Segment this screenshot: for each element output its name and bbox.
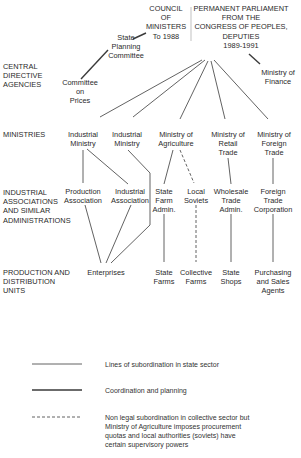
row-assoc-3: AND SIMILAR (3, 206, 71, 215)
min5-line-1: Ministry of (257, 130, 291, 139)
ministry-of-retail-trade: Ministry of Retail Trade (211, 130, 245, 158)
legend-thick-text: Coordination and planning (105, 386, 187, 395)
assoc3-line-1: State (152, 187, 175, 196)
parliament-line-3: CONGRESS OF PEOPLES, (194, 22, 289, 31)
unit2-line-1: State (154, 268, 175, 277)
row-label-production: PRODUCTION AND DISTRIBUTION UNITS (3, 268, 70, 296)
wholesale-trade-admin: Wholesale Trade Admin. (214, 187, 249, 215)
unit4-line-1: State (221, 268, 242, 277)
planning-line-3: Committee (108, 51, 144, 60)
row-prod-2: DISTRIBUTION (3, 277, 70, 286)
min3-line-2: Agriculture (158, 139, 193, 148)
industrial-ministry-1: Industrial Ministry (68, 130, 98, 148)
min4-line-3: Trade (211, 148, 245, 157)
council-line-2: OF (146, 13, 186, 22)
assoc5-line-2: Trade (214, 196, 249, 205)
unit5-line-2: and Sales (255, 277, 292, 286)
state-farm-admin: State Farm Admin. (152, 187, 175, 215)
row-prod-1: PRODUCTION AND (3, 268, 70, 277)
parliament-line-4: DEPUTIES (194, 32, 289, 41)
ministry-of-agriculture: Ministry of Agriculture (158, 130, 193, 148)
assoc6-line-3: Corporation (254, 205, 293, 214)
foreign-trade-corporation: Foreign Trade Corporation (254, 187, 293, 215)
unit5-line-3: Agents (255, 286, 292, 295)
row-ministries-1: MINISTRIES (3, 130, 45, 139)
row-central-1: CENTRAL (3, 62, 42, 71)
row-label-ministries: MINISTRIES (3, 130, 45, 139)
parliament-line-1: PERMANENT PARLIAMENT (194, 4, 289, 13)
assoc6-line-2: Trade (254, 196, 293, 205)
assoc5-line-3: Admin. (214, 205, 249, 214)
row-assoc-4: ADMINISTRATIONS (3, 216, 71, 225)
unit3-line-2: Farms (180, 277, 212, 286)
row-label-central-agencies: CENTRAL DIRECTIVE AGENCIES (3, 62, 42, 90)
council-line-3: MINISTERS (146, 22, 186, 31)
min5-line-2: Foreign (257, 139, 291, 148)
council-line-4: To 1988 (146, 32, 186, 41)
parliament-line-2: FROM THE (194, 13, 289, 22)
min2-line-1: Industrial (112, 130, 142, 139)
state-planning-committee: State Planning Committee (108, 33, 144, 61)
ministry-of-finance: Ministry of Finance (261, 68, 295, 86)
finance-line-1: Ministry of (261, 68, 295, 77)
legend-dashed-text-1: Non legal subordination in collective se… (105, 413, 249, 422)
finance-line-2: Finance (261, 77, 295, 86)
legend-thin-text: Lines of subordination in state sector (105, 360, 219, 369)
assoc3-line-3: Admin. (152, 205, 175, 214)
production-association: Production Association (64, 187, 102, 205)
row-central-3: AGENCIES (3, 80, 42, 89)
committee-on-prices: Committee on Prices (62, 78, 98, 106)
legend-dashed-text-2: Ministry of Agriculture imposes procurem… (105, 422, 249, 431)
legend-dashed-label: Non legal subordination in collective se… (105, 413, 249, 449)
unit2-line-2: Farms (154, 277, 175, 286)
council-of-ministers: COUNCIL OF MINISTERS To 1988 (146, 4, 186, 41)
planning-line-2: Planning (108, 42, 144, 51)
unit1-line-1: Enterprises (87, 268, 124, 277)
assoc6-line-1: Foreign (254, 187, 293, 196)
industrial-association: Industrial Association (111, 187, 149, 205)
parliament-line-5: 1989-1991 (194, 41, 289, 50)
min4-line-2: Retail (211, 139, 245, 148)
enterprises: Enterprises (87, 268, 124, 277)
collective-farms: Collective Farms (180, 268, 212, 286)
assoc1-line-2: Association (64, 196, 102, 205)
ministry-of-foreign-trade: Ministry of Foreign Trade (257, 130, 291, 158)
legend-thin-label: Lines of subordination in state sector (105, 360, 219, 369)
planning-to-prices-line (81, 50, 108, 79)
prices-line-1: Committee (62, 78, 98, 87)
purchasing-sales-agents: Purchasing and Sales Agents (255, 268, 292, 296)
row-assoc-2: ASSOCIATIONS (3, 197, 71, 206)
assoc4-line-1: Local (184, 187, 208, 196)
min3-line-1: Ministry of (158, 130, 193, 139)
legend-thick-label: Coordination and planning (105, 386, 187, 395)
permanent-parliament: PERMANENT PARLIAMENT FROM THE CONGRESS O… (194, 4, 289, 50)
assoc2-line-2: Association (111, 196, 149, 205)
industrial-ministry-2: Industrial Ministry (112, 130, 142, 148)
prices-line-3: Prices (62, 96, 98, 105)
min2-line-2: Ministry (112, 139, 142, 148)
assoc2-line-1: Industrial (111, 187, 149, 196)
min5-line-3: Trade (257, 148, 291, 157)
assoc4-line-2: Soviets (184, 196, 208, 205)
legend-dashed-text-3: quotas and local authorities (soviets) h… (105, 431, 249, 440)
council-line-1: COUNCIL (146, 4, 186, 13)
assoc3-line-2: Farm (152, 196, 175, 205)
unit3-line-1: Collective (180, 268, 212, 277)
planning-line-1: State (108, 33, 144, 42)
unit5-line-1: Purchasing (255, 268, 292, 277)
local-soviets: Local Soviets (184, 187, 208, 205)
assoc5-line-1: Wholesale (214, 187, 249, 196)
min1-line-1: Industrial (68, 130, 98, 139)
state-shops: State Shops (221, 268, 242, 286)
row-assoc-1: INDUSTRIAL (3, 188, 71, 197)
row-prod-3: UNITS (3, 286, 70, 295)
unit4-line-2: Shops (221, 277, 242, 286)
min1-line-2: Ministry (68, 139, 98, 148)
min4-line-1: Ministry of (211, 130, 245, 139)
parliament-to-finance-line (249, 54, 260, 64)
prices-line-2: on (62, 87, 98, 96)
row-central-2: DIRECTIVE (3, 71, 42, 80)
state-farms: State Farms (154, 268, 175, 286)
legend-dashed-text-4: certain supervisory powers (105, 440, 249, 449)
row-label-associations: INDUSTRIAL ASSOCIATIONS AND SIMILAR ADMI… (3, 188, 71, 225)
